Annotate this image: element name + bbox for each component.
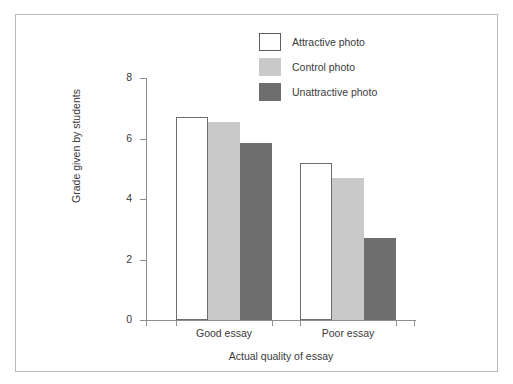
x-tick-2	[272, 321, 273, 326]
chart-figure: Attractive photo Control photo Unattract…	[0, 0, 513, 384]
legend-label-control: Control photo	[292, 61, 355, 73]
y-tick-label-0: 0	[98, 314, 132, 325]
x-tick-3	[300, 321, 301, 326]
x-axis-title: Actual quality of essay	[146, 350, 416, 362]
y-axis-title: Grade given by students	[70, 66, 82, 226]
legend-item-control: Control photo	[259, 54, 377, 79]
legend-swatch-attractive-icon	[259, 33, 281, 51]
bar-good-essay-attractive-photo	[176, 117, 208, 320]
x-group-label-good-essay: Good essay	[159, 328, 289, 339]
legend-label-attractive: Attractive photo	[292, 36, 365, 48]
bar-poor-essay-attractive-photo	[300, 163, 332, 320]
x-tick-5	[414, 321, 415, 326]
y-tick-label-8: 8	[98, 72, 132, 83]
legend-item-attractive: Attractive photo	[259, 29, 377, 54]
x-axis-line	[146, 320, 416, 321]
legend-swatch-control-icon	[259, 58, 281, 76]
bar-poor-essay-unattractive-photo	[364, 238, 396, 320]
bar-good-essay-control-photo	[208, 122, 240, 320]
y-tick-label-6: 6	[98, 133, 132, 144]
y-tick-label-2: 2	[98, 254, 132, 265]
bar-good-essay-unattractive-photo	[240, 143, 272, 320]
x-tick-1	[176, 321, 177, 326]
plot-area	[146, 78, 414, 320]
bar-poor-essay-control-photo	[332, 178, 364, 320]
x-tick-0	[146, 321, 147, 326]
y-tick-label-4: 4	[98, 193, 132, 204]
x-group-label-poor-essay: Poor essay	[283, 328, 413, 339]
x-tick-4	[396, 321, 397, 326]
